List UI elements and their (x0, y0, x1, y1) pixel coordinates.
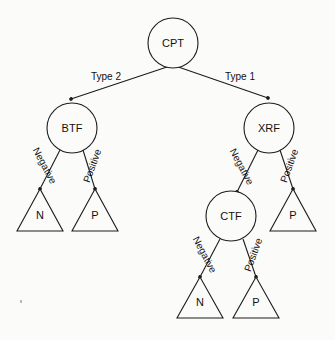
leaf-label-btf-negative: N (36, 209, 44, 221)
node-label-cpt: CPT (162, 37, 184, 49)
node-label-xrf: XRF (258, 122, 280, 134)
node-label-ctf: CTF (220, 210, 242, 222)
leaf-label-btf-positive: P (91, 209, 98, 221)
leaf-label-ctf-negative: N (196, 296, 204, 308)
scan-artifact-speck (20, 300, 22, 303)
edge-label-ctf-positive: Positive (242, 236, 264, 273)
edge-label-btf-positive: Positive (81, 147, 103, 184)
node-label-btf: BTF (62, 122, 83, 134)
edge-label-type-1: Type 1 (225, 71, 255, 82)
leaf-label-xrf-positive: P (289, 209, 296, 221)
edge-label-xrf-negative: Negative (228, 147, 256, 187)
decision-tree-diagram: N P P N P CPT BTF XRF CTF Type 2 Type 1 (0, 0, 335, 340)
leaf-label-ctf-positive: P (252, 296, 259, 308)
leaf-group: N P P N P (17, 189, 316, 318)
edge-label-group: Type 2 Type 1 Negative Positive Negative… (31, 71, 301, 275)
node-group: CPT BTF XRF CTF (47, 18, 294, 241)
tree-canvas: N P P N P CPT BTF XRF CTF Type 2 Type 1 (0, 0, 335, 340)
edge-label-type-2: Type 2 (91, 71, 121, 82)
